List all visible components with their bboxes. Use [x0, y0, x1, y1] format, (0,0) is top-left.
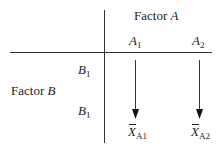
factor-b-header: Factor B	[11, 84, 55, 97]
factor-a-label: Factor	[134, 8, 167, 23]
mean-x-a1: XA1	[128, 125, 147, 138]
factor-a-var: A	[170, 8, 178, 23]
row-label-b1-bottom: B1	[78, 104, 90, 117]
diagram-lines	[0, 0, 222, 150]
mean-x-a2: XA2	[191, 125, 210, 138]
row-label-b1-top: B1	[78, 63, 90, 76]
factor-b-var: B	[47, 83, 55, 98]
arrow-a2	[196, 60, 203, 119]
column-header-a2: A2	[192, 34, 204, 47]
factor-a-header: Factor A	[134, 9, 178, 22]
column-header-a1: A1	[129, 34, 141, 47]
arrow-a1	[132, 60, 139, 119]
factor-b-label: Factor	[11, 83, 44, 98]
